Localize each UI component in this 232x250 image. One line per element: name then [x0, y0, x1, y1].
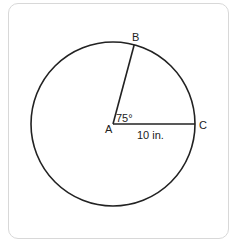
circle-diagram: A B C 75° 10 in. — [0, 0, 232, 250]
angle-label: 75° — [116, 112, 133, 124]
label-center-a: A — [105, 123, 113, 135]
label-point-c: C — [199, 119, 207, 131]
label-point-b: B — [132, 31, 139, 43]
radius-length-label: 10 in. — [137, 129, 164, 141]
